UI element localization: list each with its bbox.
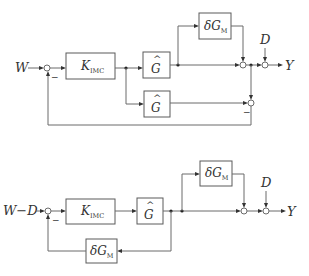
arrow-head [195, 172, 200, 176]
model-g-label: G [151, 101, 161, 115]
arrow-head [235, 63, 240, 67]
signal-line [178, 26, 196, 65]
diagram-equivalent-structure: W−D − KIMC ^ G δGM D Y [3, 161, 297, 263]
signal-line [232, 174, 244, 205]
minus-sign: − [51, 72, 59, 82]
arrow-head [46, 71, 50, 76]
summing-junction-plant [240, 62, 246, 68]
disturbance-d-label: D [260, 175, 272, 190]
arrow-head [249, 95, 253, 100]
output-y-label: Y [287, 204, 297, 219]
arrow-head [194, 24, 199, 28]
input-w-label: W [15, 60, 30, 75]
signal-line [231, 26, 243, 59]
arrow-head [138, 66, 143, 70]
arrow-head [243, 101, 248, 105]
arrow-head [264, 203, 268, 208]
arrow-head [263, 57, 267, 62]
arrow-head [236, 209, 241, 213]
signal-line [126, 68, 141, 104]
signal-line [182, 174, 197, 211]
summing-junction-input [44, 65, 50, 71]
arrow-head [242, 203, 246, 208]
arrow-head [139, 102, 144, 106]
summing-junction-plant [241, 208, 247, 214]
input-w-minus-d-label: W−D [3, 203, 38, 218]
arrow-head [132, 209, 137, 213]
block-diagrams: W − KIMC ^ G ^ G δGM [0, 0, 309, 276]
summing-junction-input [45, 208, 51, 214]
arrow-head [278, 63, 283, 67]
arrow-head [257, 63, 262, 67]
diagram-imc-structure: W − KIMC ^ G ^ G δGM [15, 13, 295, 125]
arrow-head [281, 209, 286, 213]
model-g-label: G [144, 208, 154, 222]
controller-kimc-block [66, 53, 115, 79]
output-y-label: Y [285, 58, 295, 73]
disturbance-d-label: D [259, 32, 271, 47]
summing-junction-disturbance [262, 62, 268, 68]
arrow-head [61, 209, 66, 213]
model-g-label: G [151, 62, 161, 76]
arrow-head [40, 209, 45, 213]
arrow-head [241, 57, 245, 62]
summing-junction-disturbance [263, 208, 269, 214]
arrow-head [46, 214, 50, 219]
minus-sign: − [243, 107, 251, 117]
arrow-head [39, 66, 44, 70]
arrow-head [61, 66, 66, 70]
arrow-head [258, 209, 263, 213]
arrow-head [117, 249, 122, 253]
summing-junction-compare [248, 100, 254, 106]
minus-sign: − [52, 215, 60, 225]
